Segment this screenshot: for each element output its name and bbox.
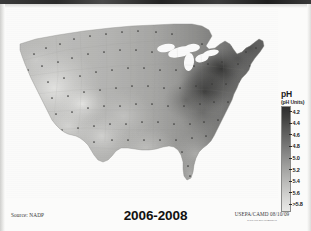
legend-tick-dash <box>289 111 292 112</box>
page-edge-left <box>0 4 5 231</box>
figure-page: pH (pH Units) 4.24.44.64.85.05.25.45.6>5… <box>0 4 311 231</box>
legend-tick-dash <box>289 146 292 147</box>
legend-tick-label: 5.0 <box>293 155 300 161</box>
legend-tick-dash <box>289 169 292 170</box>
acid-rain-ph-map-figure: pH (pH Units) 4.24.44.64.85.05.25.45.6>5… <box>0 0 311 231</box>
credit-block: USEPA/CAMD 08/10/09 www.epa.gov/airmarke… <box>224 211 300 222</box>
legend-tick-dash <box>289 158 292 159</box>
legend-subtitle: (pH Units) <box>281 99 311 105</box>
us-precipitation-ph-map <box>6 8 278 198</box>
legend-tick-label: 5.4 <box>293 178 300 184</box>
legend-tick-label: 4.2 <box>293 108 300 114</box>
legend-tick-dash <box>289 181 292 182</box>
legend-tick-dash <box>289 192 292 193</box>
legend-tick-dash <box>289 204 292 205</box>
ph-colorbar-legend: pH (pH Units) 4.24.44.64.85.05.25.45.6>5… <box>281 90 311 212</box>
legend-title: pH <box>281 90 311 99</box>
legend-tick-label: 5.2 <box>293 166 300 172</box>
agency-url: www.epa.gov/airmarkets <box>224 218 300 222</box>
legend-tick-label: >5.8 <box>293 201 303 207</box>
legend-tick-label: 5.6 <box>293 189 300 195</box>
legend-bar-wrapper: 4.24.44.64.85.05.25.45.6>5.8 <box>281 106 311 210</box>
legend-tick-dash <box>289 123 292 124</box>
legend-tick-label: 4.4 <box>293 120 300 126</box>
agency-credit: USEPA/CAMD 08/10/09 <box>224 211 300 217</box>
legend-tick-label: 4.8 <box>293 143 300 149</box>
legend-tick-dash <box>289 134 292 135</box>
legend-tick-label: 4.6 <box>293 131 300 137</box>
